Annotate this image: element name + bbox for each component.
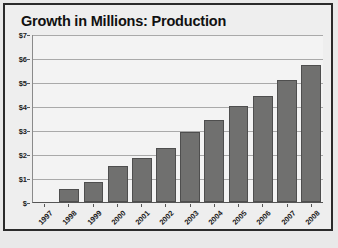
x-axis-tick — [287, 204, 288, 207]
x-axis-slot: 2008 — [299, 204, 323, 236]
chart-plot-frame: Growth in Millions: Production $$1$2$3$4… — [3, 3, 333, 231]
y-axis-tick-label: $5 — [19, 79, 27, 88]
y-axis-tick — [27, 131, 30, 132]
x-axis-slot: 2004 — [202, 204, 226, 236]
x-axis-tick-label: 1997 — [37, 209, 55, 227]
x-axis-slot: 1999 — [81, 204, 105, 236]
x-axis-slot: 2006 — [250, 204, 274, 236]
x-axis-tick — [68, 204, 69, 207]
bar — [84, 182, 104, 202]
bar — [156, 148, 176, 202]
bar-series — [33, 35, 323, 202]
bar — [180, 132, 200, 202]
bar — [301, 65, 321, 202]
x-axis-slot: 2000 — [105, 204, 129, 236]
y-axis-tick-label: $3 — [19, 127, 27, 136]
x-axis-tick — [190, 204, 191, 207]
x-axis-tick-label: 1999 — [85, 209, 103, 227]
x-axis-tick — [93, 204, 94, 207]
bar-slot — [251, 35, 275, 202]
x-axis-slot: 2003 — [178, 204, 202, 236]
x-axis-tick — [214, 204, 215, 207]
bar-slot — [226, 35, 250, 202]
x-axis-slot: 2007 — [275, 204, 299, 236]
bar-slot — [154, 35, 178, 202]
x-axis-tick-label: 2006 — [255, 209, 273, 227]
bar-slot — [130, 35, 154, 202]
y-axis-tick — [27, 107, 30, 108]
bar-slot — [299, 35, 323, 202]
bar-slot — [106, 35, 130, 202]
x-axis-tick — [238, 204, 239, 207]
x-axis-tick-label: 2004 — [206, 209, 224, 227]
chart-figure: Growth in Millions: Production $$1$2$3$4… — [0, 0, 338, 248]
y-axis-tick — [27, 155, 30, 156]
x-axis-slot: 2001 — [129, 204, 153, 236]
y-axis-tick-label: $2 — [19, 151, 27, 160]
bar-slot — [33, 35, 57, 202]
x-axis-tick-label: 2008 — [303, 209, 321, 227]
x-axis-slot: 2002 — [153, 204, 177, 236]
x-axis-tick-label: 2005 — [231, 209, 249, 227]
y-axis-tick — [27, 83, 30, 84]
y-axis-tick — [27, 35, 30, 36]
x-axis-tick — [117, 204, 118, 207]
y-axis-tick — [27, 59, 30, 60]
x-axis-slot: 2005 — [226, 204, 250, 236]
x-axis-tick — [262, 204, 263, 207]
bar — [132, 158, 152, 202]
x-axis-tick-label: 2003 — [182, 209, 200, 227]
bar — [253, 96, 273, 202]
y-axis-tick — [27, 203, 30, 204]
y-axis-tick-label: $1 — [19, 175, 27, 184]
bar — [277, 80, 297, 202]
x-axis-tick-label: 2001 — [134, 209, 152, 227]
y-axis-tick-label: $6 — [19, 55, 27, 64]
x-axis-slot: 1997 — [32, 204, 56, 236]
bar — [229, 106, 249, 202]
bar-slot — [275, 35, 299, 202]
bar-slot — [202, 35, 226, 202]
bar — [59, 189, 79, 202]
x-axis-tick-label: 1998 — [61, 209, 79, 227]
bar-slot — [178, 35, 202, 202]
x-axis-slot: 1998 — [56, 204, 80, 236]
x-axis-tick — [141, 204, 142, 207]
y-axis: $$1$2$3$4$5$6$7 — [5, 35, 30, 203]
x-axis-tick-label: 2007 — [279, 209, 297, 227]
y-axis-tick-label: $4 — [19, 103, 27, 112]
x-axis-tick-label: 2000 — [109, 209, 127, 227]
y-axis-tick — [27, 179, 30, 180]
plot-area — [32, 35, 323, 203]
chart-title: Growth in Millions: Production — [21, 13, 226, 29]
bar — [204, 120, 224, 202]
bar-slot — [81, 35, 105, 202]
x-axis-tick — [165, 204, 166, 207]
x-axis-tick-label: 2002 — [158, 209, 176, 227]
x-axis-tick — [44, 204, 45, 207]
bar — [108, 166, 128, 202]
y-axis-tick-label: $7 — [19, 31, 27, 40]
x-axis: 1997199819992000200120022003200420052006… — [32, 204, 323, 236]
bar-slot — [57, 35, 81, 202]
x-axis-tick — [311, 204, 312, 207]
